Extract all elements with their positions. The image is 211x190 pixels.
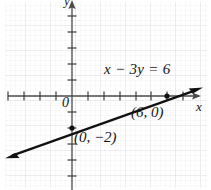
point-label-6-0: (6, 0)	[131, 105, 164, 120]
x-axis-label: x	[196, 100, 202, 113]
coordinate-plane-figure: x − 3y = 6 (6, 0) (0, −2) 0 x y	[0, 0, 211, 190]
point-label-0-neg2: (0, −2)	[74, 130, 117, 145]
grid-major-layer	[5, 2, 207, 188]
point-6-0-marker	[164, 93, 169, 98]
graph-canvas	[0, 0, 211, 190]
origin-label: 0	[62, 96, 69, 110]
equation-label: x − 3y = 6	[104, 62, 171, 77]
y-axis-label: y	[64, 0, 70, 7]
